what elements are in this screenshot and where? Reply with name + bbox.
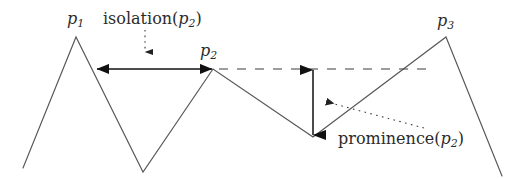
- prominence-label-prefix: prominence(: [338, 129, 441, 148]
- terrain-profile-polyline: [23, 37, 502, 176]
- isolation-label-base: p: [178, 9, 188, 28]
- peak-label-p1: p1: [67, 11, 84, 30]
- isolation-annotation-label: isolation(p2): [103, 11, 202, 30]
- figure-canvas: p1 p2 p3 isolation(p2) prominence(p2): [0, 0, 522, 179]
- peak-label-p1-base: p: [67, 9, 77, 28]
- prominence-label-suffix: ): [458, 129, 464, 148]
- prominence-label-base: p: [441, 129, 451, 148]
- peak-label-p1-sub: 1: [77, 17, 84, 30]
- peak-label-p3-base: p: [437, 11, 447, 30]
- prominence-annotation-label: prominence(p2): [338, 131, 464, 150]
- peak-label-p3-sub: 3: [447, 19, 454, 32]
- peak-label-p2-sub: 2: [210, 49, 217, 62]
- isolation-label-suffix: ): [196, 9, 202, 28]
- isolation-label-sub: 2: [189, 17, 196, 30]
- peak-label-p3: p3: [437, 13, 454, 32]
- isolation-label-prefix: isolation(: [103, 9, 178, 28]
- peak-label-p2-base: p: [200, 41, 210, 60]
- prominence-label-sub: 2: [451, 137, 458, 150]
- peak-label-p2: p2: [200, 43, 217, 62]
